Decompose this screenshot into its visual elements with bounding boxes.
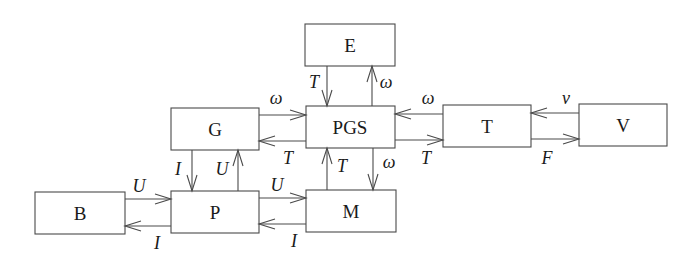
arrow-m-to-pgs: T [322,148,349,190]
block-p-label: P [210,202,221,223]
block-b: B [35,192,125,234]
block-m: M [306,190,396,232]
signal-label-g-to-pgs: ω [270,88,283,108]
arrow-g-to-pgs: ω [259,88,306,120]
block-v: V [579,104,667,146]
block-t: T [443,105,531,147]
arrow-e-to-pgs: T [309,66,332,106]
signal-label-pgs-to-m: ω [383,152,396,172]
arrow-pgs-to-m: ω [368,148,395,190]
block-e-label: E [344,35,356,56]
signal-label-pgs-to-g: T [283,148,295,168]
block-v-label: V [616,115,630,136]
block-e: E [305,24,395,66]
block-p: P [171,191,259,233]
signal-label-pgs-to-t: T [421,148,433,168]
arrow-m-to-p: I [259,219,306,251]
signal-label-t-to-v: F [541,148,554,168]
arrow-b-to-p: U [125,176,171,204]
signal-label-p-to-b: I [153,233,161,253]
block-pgs-label: PGS [333,117,368,138]
arrow-t-to-pgs: ω [395,88,443,119]
arrow-pgs-to-g: T [259,136,306,168]
block-g: G [171,108,259,150]
signal-label-pgs-to-e: ω [380,72,393,92]
block-t-label: T [481,116,493,137]
block-diagram: E G PGS T V B P M T ω ω [0,0,700,264]
signal-label-b-to-p: U [133,176,147,196]
arrow-p-to-g: U [216,150,244,191]
arrow-p-to-b: I [125,221,171,253]
arrow-p-to-m: U [259,175,306,203]
signal-label-e-to-pgs: T [309,72,321,92]
block-m-label: M [343,201,360,222]
signal-label-p-to-m: U [271,175,285,195]
block-pgs: PGS [306,106,395,148]
signal-label-p-to-g: U [216,159,230,179]
signal-label-g-to-p: I [174,159,182,179]
arrow-pgs-to-e: ω [367,66,392,106]
signal-label-m-to-p: I [290,231,298,251]
block-g-label: G [208,119,222,140]
signal-label-v-to-t: v [562,88,570,108]
signal-label-t-to-pgs: ω [422,88,435,108]
block-b-label: B [74,203,87,224]
arrow-pgs-to-t: T [395,135,443,168]
arrow-t-to-v: F [531,134,579,168]
signal-label-m-to-pgs: T [337,156,349,176]
arrow-g-to-p: I [174,150,197,191]
arrow-v-to-t: v [531,88,579,118]
